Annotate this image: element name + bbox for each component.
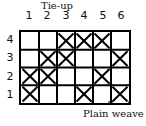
cross-mark-icon: [77, 87, 92, 102]
row-label-4: 4: [4, 34, 16, 46]
cross-mark-icon: [113, 51, 128, 66]
grid-cells: [21, 32, 129, 103]
cross-mark-icon: [41, 69, 56, 84]
cross-mark-icon: [23, 87, 38, 102]
plain-weave-bracket-icon: [91, 101, 131, 107]
column-label-5: 5: [94, 10, 112, 22]
plain-weave-caption: Plain weave: [83, 108, 144, 120]
column-label-2: 2: [38, 10, 56, 22]
cross-mark-icon: [59, 51, 74, 66]
cross-mark-icon: [41, 51, 56, 66]
column-label-1: 1: [20, 10, 38, 22]
cross-mark-icon: [23, 69, 38, 84]
column-label-4: 4: [75, 10, 93, 22]
row-label-1: 1: [4, 89, 16, 101]
cross-mark-icon: [95, 34, 110, 49]
cross-mark-icon: [113, 87, 128, 102]
column-label-6: 6: [112, 10, 130, 22]
cross-mark-icon: [59, 34, 74, 49]
tie-up-grid: [19, 30, 131, 105]
column-label-3: 3: [57, 10, 75, 22]
cross-mark-icon: [95, 69, 110, 84]
cross-mark-icon: [77, 34, 92, 49]
row-label-3: 3: [4, 52, 16, 64]
row-label-2: 2: [4, 71, 16, 83]
